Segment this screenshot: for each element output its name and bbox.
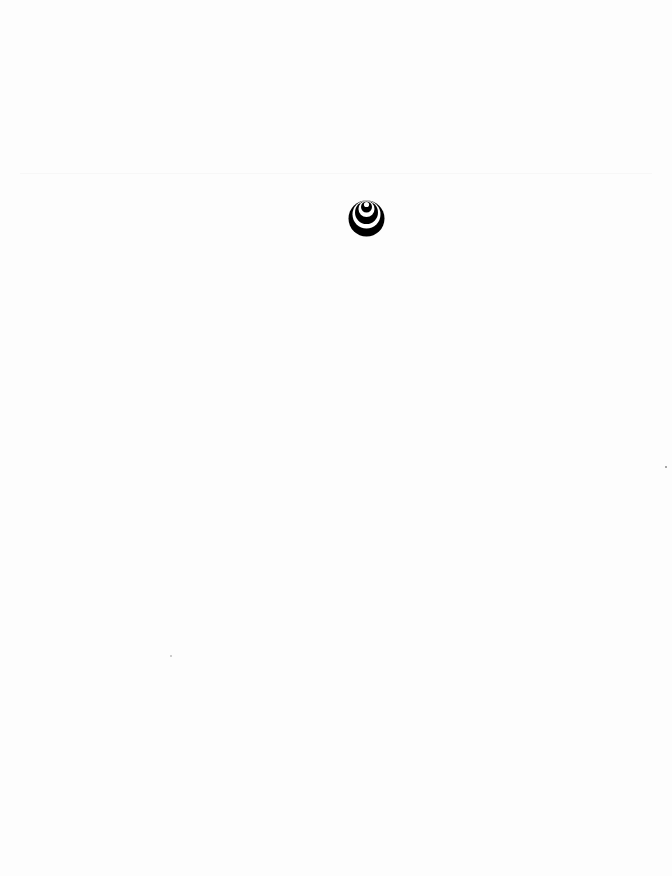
scan-speck — [665, 466, 667, 468]
concentric-rings-sphere-icon — [348, 198, 385, 237]
scan-speck — [170, 655, 172, 657]
bleed-through-line — [20, 173, 652, 174]
document-page — [0, 0, 672, 876]
